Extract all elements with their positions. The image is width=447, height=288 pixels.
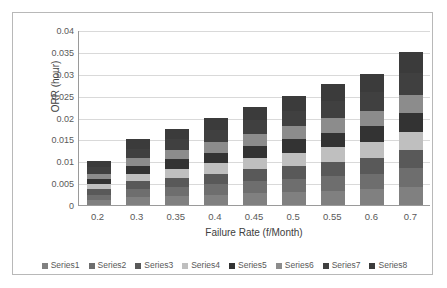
- bar-segment: [399, 113, 423, 131]
- bar-segment: [321, 118, 345, 132]
- legend-label: Series8: [378, 261, 407, 270]
- legend-item[interactable]: Series5: [229, 261, 267, 270]
- bar-segment: [126, 174, 150, 182]
- y-axis-tick-label: 0.01: [56, 158, 74, 167]
- bar-segment: [243, 146, 267, 158]
- legend-item[interactable]: Series7: [323, 261, 361, 270]
- bar-segment: [165, 139, 189, 150]
- bar-slot: [79, 31, 118, 205]
- bar-slot: [313, 31, 352, 205]
- bar-slot: [235, 31, 274, 205]
- bar-segment: [126, 166, 150, 174]
- bar-segment: [321, 133, 345, 147]
- bar-segment: [321, 101, 345, 118]
- bar-segment: [126, 189, 150, 197]
- bar-segment: [165, 196, 189, 205]
- stacked-bar[interactable]: [87, 161, 111, 205]
- bar-segment: [126, 149, 150, 158]
- bar-segment: [165, 178, 189, 187]
- bar-slot: [274, 31, 313, 205]
- bar-segment: [282, 166, 306, 179]
- bar-segment: [204, 163, 228, 174]
- bar-segment: [204, 153, 228, 164]
- bar-segment: [165, 150, 189, 159]
- bar-slot: [352, 31, 391, 205]
- y-axis-tick-label: 0.04: [56, 27, 74, 36]
- legend-label: Series2: [98, 261, 127, 270]
- y-axis-tick-label: 0.02: [56, 115, 74, 124]
- y-axis-tick-label: 0.015: [51, 136, 74, 145]
- stacked-bar[interactable]: [282, 96, 306, 205]
- bar-segment: [399, 150, 423, 168]
- x-axis-tick-labels: 0.20.30.350.40.450.50.550.60.7: [78, 209, 430, 225]
- stacked-bar[interactable]: [126, 139, 150, 205]
- bar-segment: [360, 126, 384, 142]
- legend-item[interactable]: Series8: [369, 261, 407, 270]
- plot-area: [78, 31, 430, 206]
- legend-item[interactable]: Series2: [89, 261, 127, 270]
- legend-item[interactable]: Series3: [135, 261, 173, 270]
- legend-swatch-icon: [323, 263, 329, 269]
- stacked-bar[interactable]: [243, 107, 267, 205]
- bar-segment: [165, 159, 189, 168]
- bar-segment: [204, 195, 228, 206]
- bar-segment: [243, 181, 267, 193]
- x-axis-title: Failure Rate (f/Month): [78, 227, 430, 238]
- bar-segment: [360, 111, 384, 127]
- stacked-bar[interactable]: [399, 52, 423, 205]
- legend-swatch-icon: [89, 263, 95, 269]
- bar-segment: [243, 169, 267, 181]
- bar-segment: [321, 147, 345, 161]
- bar-segment: [360, 158, 384, 174]
- legend-swatch-icon: [276, 263, 282, 269]
- bar-segment: [399, 132, 423, 150]
- stacked-bar[interactable]: [360, 74, 384, 205]
- bar-segment: [204, 184, 228, 195]
- gridline: [78, 206, 430, 207]
- bar-group: [79, 31, 430, 205]
- y-axis-tick-label: 0.035: [51, 49, 74, 58]
- bar-segment: [282, 139, 306, 152]
- legend-item[interactable]: Series1: [42, 261, 80, 270]
- legend-label: Series1: [51, 261, 80, 270]
- legend-label: Series4: [191, 261, 220, 270]
- bar-segment: [321, 84, 345, 101]
- legend-item[interactable]: Series4: [182, 261, 220, 270]
- legend-label: Series6: [285, 261, 314, 270]
- bar-segment: [282, 192, 306, 205]
- stacked-bar[interactable]: [165, 129, 189, 206]
- bar-slot: [157, 31, 196, 205]
- bar-segment: [282, 96, 306, 111]
- x-axis-tick-label: 0.5: [274, 209, 313, 225]
- bar-slot: [196, 31, 235, 205]
- legend-swatch-icon: [182, 263, 188, 269]
- y-axis-tick-label: 0.005: [51, 180, 74, 189]
- x-axis-tick-label: 0.6: [352, 209, 391, 225]
- x-axis-line: [78, 205, 430, 206]
- stacked-bar[interactable]: [321, 84, 345, 205]
- bar-segment: [126, 197, 150, 205]
- stacked-bar[interactable]: [204, 118, 228, 206]
- bar-segment: [126, 181, 150, 189]
- bar-segment: [360, 92, 384, 110]
- y-axis-tick-label: 0.025: [51, 93, 74, 102]
- x-axis-tick-label: 0.55: [313, 209, 352, 225]
- bar-segment: [243, 158, 267, 170]
- bar-segment: [282, 179, 306, 192]
- bar-segment: [399, 73, 423, 94]
- bar-segment: [126, 158, 150, 166]
- bar-segment: [204, 130, 228, 142]
- x-axis-tick-label: 0.3: [117, 209, 156, 225]
- bar-segment: [282, 126, 306, 139]
- bar-segment: [360, 189, 384, 205]
- bar-segment: [243, 120, 267, 134]
- bar-segment: [360, 174, 384, 190]
- bar-segment: [399, 52, 423, 73]
- bar-segment: [360, 142, 384, 158]
- bar-slot: [391, 31, 430, 205]
- chart-frame: ORR (hour) 00.0050.010.0150.020.0250.030…: [12, 12, 433, 275]
- legend-item[interactable]: Series6: [276, 261, 314, 270]
- bar-segment: [282, 111, 306, 126]
- chart-screenshot: ORR (hour) 00.0050.010.0150.020.0250.030…: [0, 0, 447, 288]
- bar-segment: [321, 162, 345, 176]
